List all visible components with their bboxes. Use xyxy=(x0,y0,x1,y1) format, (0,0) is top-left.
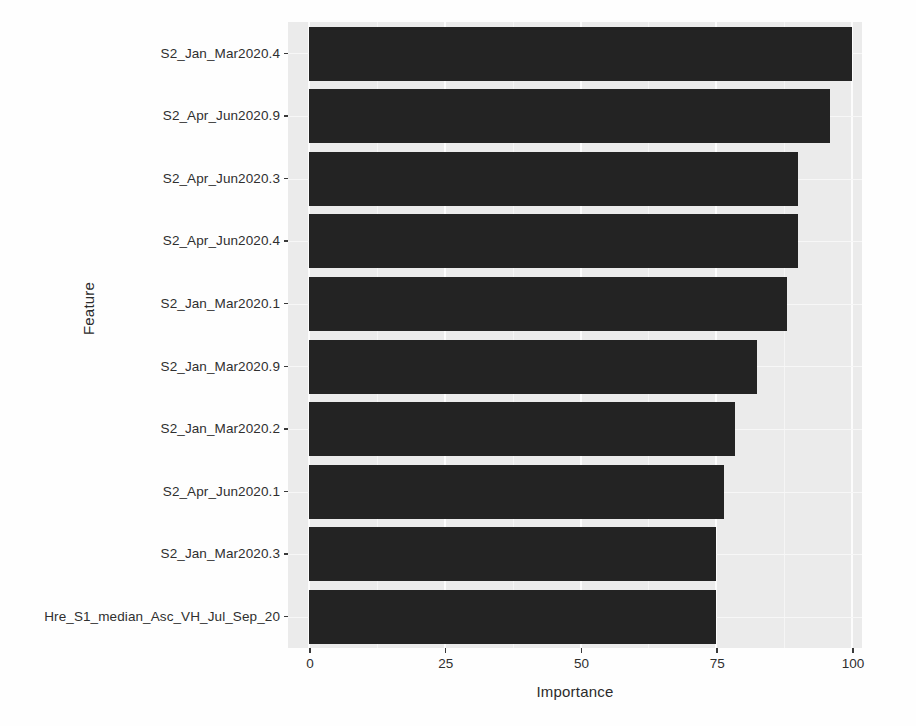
y-axis-tick-label: S2_Jan_Mar2020.3 xyxy=(161,547,280,561)
bar[interactable] xyxy=(309,152,798,206)
x-axis-tick-mark xyxy=(852,648,854,653)
y-axis-tick-label: Hre_S1_median_Asc_VH_Jul_Sep_20 xyxy=(44,610,280,624)
x-axis: 0255075100 xyxy=(288,648,862,682)
x-axis-tick-label: 100 xyxy=(842,656,865,671)
y-axis-tick-label: S2_Apr_Jun2020.3 xyxy=(163,172,280,186)
bar[interactable] xyxy=(309,89,830,143)
x-axis-tick-label: 75 xyxy=(710,656,725,671)
y-axis-tick-label: S2_Jan_Mar2020.2 xyxy=(161,422,280,436)
bar-chart-figure: Feature S2_Jan_Mar2020.4S2_Apr_Jun2020.9… xyxy=(0,0,916,726)
bar[interactable] xyxy=(309,465,724,519)
bar[interactable] xyxy=(309,277,787,331)
x-axis-tick-mark xyxy=(716,648,718,653)
bar[interactable] xyxy=(309,590,716,644)
y-axis-tick-labels: S2_Jan_Mar2020.4S2_Apr_Jun2020.9S2_Apr_J… xyxy=(0,22,288,648)
plot-panel xyxy=(288,22,862,648)
x-axis-tick-mark xyxy=(581,648,583,653)
bar[interactable] xyxy=(309,340,757,394)
x-axis-tick-mark xyxy=(445,648,447,653)
bar[interactable] xyxy=(309,527,716,581)
x-axis-tick-label: 0 xyxy=(306,656,314,671)
bar[interactable] xyxy=(309,27,852,81)
x-axis-tick-mark xyxy=(309,648,311,653)
y-axis-tick-label: S2_Jan_Mar2020.1 xyxy=(161,297,280,311)
y-axis-tick-label: S2_Apr_Jun2020.4 xyxy=(163,234,280,248)
y-axis-tick-label: S2_Jan_Mar2020.9 xyxy=(161,360,280,374)
bar[interactable] xyxy=(309,214,798,268)
y-axis-tick-label: S2_Apr_Jun2020.1 xyxy=(163,485,280,499)
x-axis-tick-label: 25 xyxy=(438,656,453,671)
bar[interactable] xyxy=(309,402,735,456)
y-axis-tick-label: S2_Jan_Mar2020.4 xyxy=(161,47,280,61)
x-axis-title: Importance xyxy=(288,683,862,700)
x-axis-tick-label: 50 xyxy=(574,656,589,671)
y-axis-tick-label: S2_Apr_Jun2020.9 xyxy=(163,109,280,123)
